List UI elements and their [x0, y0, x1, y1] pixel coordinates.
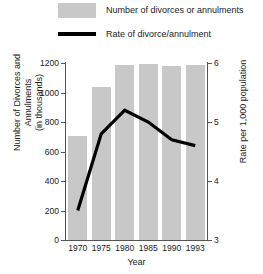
legend-item-divorce-count: Number of divorces or annulments [58, 3, 244, 17]
plot-area [66, 63, 207, 240]
legend-item-divorce-rate: Rate of divorce/annulment [58, 27, 211, 41]
left-axis-title-line2: (in thousands) [34, 74, 44, 131]
legend-label-divorce-count: Number of divorces or annulments [106, 5, 244, 15]
right-tick-3 [208, 240, 212, 241]
left-tick-1200 [61, 63, 65, 64]
right-tick-4 [208, 181, 212, 182]
left-tick-0 [61, 240, 65, 241]
legend-label-divorce-rate: Rate of divorce/annulment [106, 29, 211, 39]
x-tick-label-1975: 1975 [88, 244, 114, 253]
line-series [66, 63, 207, 240]
left-tick-1000 [61, 93, 65, 94]
left-tick-label-200: 200 [45, 207, 59, 216]
x-tick-label-1970: 1970 [65, 244, 91, 253]
bottom-axis-line [61, 240, 212, 241]
left-axis-title-line1: Number of Divorces and Annulments [12, 54, 33, 151]
left-tick-label-400: 400 [45, 177, 59, 186]
left-tick-400 [61, 181, 65, 182]
x-tick-label-1980: 1980 [112, 244, 138, 253]
left-tick-600 [61, 152, 65, 153]
x-tick-label-1993: 1993 [182, 244, 208, 253]
divorce-statistics-chart: Number of divorces or annulments Rate of… [0, 0, 263, 274]
left-tick-label-0: 0 [54, 236, 59, 245]
right-tick-5 [208, 122, 212, 123]
left-axis-line [65, 62, 66, 241]
right-axis-line [207, 62, 208, 241]
right-axis-title: Rate per 1,000 population [238, 47, 249, 177]
left-tick-label-800: 800 [45, 118, 59, 127]
left-tick-800 [61, 122, 65, 123]
right-tick-label-5: 5 [214, 118, 219, 127]
right-tick-label-4: 4 [214, 177, 219, 186]
left-tick-label-600: 600 [45, 148, 59, 157]
line-swatch-icon [58, 32, 96, 36]
left-tick-200 [61, 211, 65, 212]
right-tick-label-6: 6 [214, 59, 219, 68]
bar-swatch-icon [58, 3, 96, 18]
rate-polyline [78, 110, 196, 210]
right-tick-label-3: 3 [214, 236, 219, 245]
x-axis-title: Year [61, 257, 212, 267]
x-tick-label-1985: 1985 [135, 244, 161, 253]
right-tick-6 [208, 63, 212, 64]
left-axis-title: Number of Divorces and Annulments (in th… [12, 38, 45, 168]
x-tick-label-1990: 1990 [159, 244, 185, 253]
